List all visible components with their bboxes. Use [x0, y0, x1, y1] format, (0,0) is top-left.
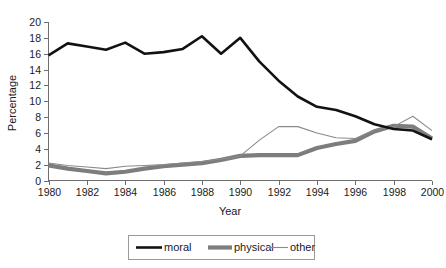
legend-label-physical: physical [234, 241, 274, 253]
x-tick-label: 1998 [383, 186, 407, 198]
series-line-physical [49, 126, 433, 174]
x-tick-label: 1996 [344, 186, 368, 198]
y-tick-label: 8 [35, 111, 41, 123]
x-tick-label: 1990 [229, 186, 253, 198]
x-tick-label: 2000 [421, 186, 445, 198]
chart-figure: Percentage Year 02468101214161820 198019… [0, 0, 446, 268]
legend-label-moral: moral [164, 241, 192, 253]
x-axis-ticks: 1980198219841986198819901992199419961998… [38, 181, 445, 199]
x-tick-label: 1986 [153, 186, 177, 198]
y-tick-label: 10 [29, 95, 41, 107]
x-tick-label: 1982 [76, 186, 100, 198]
y-tick-label: 6 [35, 127, 41, 139]
x-tick-label: 1984 [114, 186, 138, 198]
y-axis-ticks: 02468101214161820 [29, 16, 48, 187]
y-tick-label: 2 [35, 159, 41, 171]
x-axis-title: Year [219, 205, 242, 217]
y-axis-title: Percentage [6, 75, 18, 131]
y-tick-label: 12 [29, 79, 41, 91]
legend-label-other: other [290, 241, 315, 253]
x-tick-label: 1992 [268, 186, 292, 198]
y-tick-label: 4 [35, 143, 41, 155]
x-tick-label: 1994 [306, 186, 330, 198]
series-line-moral [49, 36, 433, 139]
x-tick-label: 1980 [38, 186, 62, 198]
y-tick-label: 14 [29, 64, 41, 76]
line-chart: Percentage Year 02468101214161820 198019… [0, 0, 446, 268]
y-tick-label: 20 [29, 16, 41, 28]
x-tick-label: 1988 [191, 186, 215, 198]
y-tick-label: 18 [29, 32, 41, 44]
y-tick-label: 16 [29, 48, 41, 60]
series-lines [49, 36, 433, 173]
